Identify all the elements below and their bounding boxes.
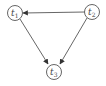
node-t1: t1 bbox=[8, 6, 23, 21]
edge-t2-t1 bbox=[23, 12, 85, 13]
dag-diagram: t1 t2 t3 bbox=[0, 0, 106, 86]
edge-t1-t3 bbox=[20, 19, 48, 64]
edge-t2-t3 bbox=[60, 18, 87, 64]
node-t2: t2 bbox=[85, 5, 100, 20]
node-t3: t3 bbox=[47, 65, 62, 80]
